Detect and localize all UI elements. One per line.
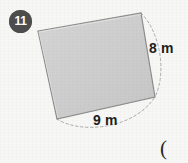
dimension-label-bottom-side: 9 m [93, 112, 118, 128]
trailing-parenthesis: ( [160, 136, 167, 161]
problem-number-badge: 11 [9, 10, 32, 33]
worksheet-page: 11 8 m 9 m ( [0, 0, 188, 163]
dimension-label-right-side: 8 m [149, 40, 174, 56]
